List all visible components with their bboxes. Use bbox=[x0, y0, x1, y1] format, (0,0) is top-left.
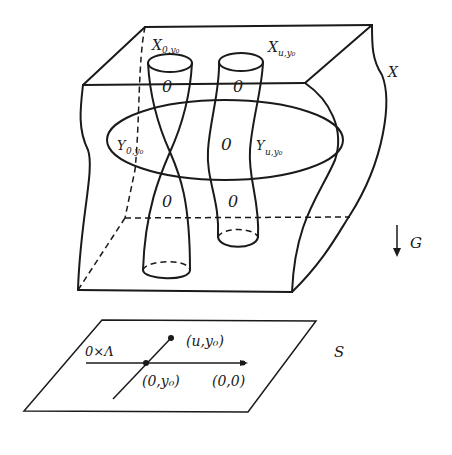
label-x-0-y0: X 0,y₀ bbox=[151, 37, 180, 55]
box-hidden-bottom-edge bbox=[125, 217, 350, 218]
box-top-right-edge bbox=[305, 25, 372, 83]
svg-text:u,y₀: u,y₀ bbox=[278, 48, 296, 58]
tube-right-top-rim bbox=[219, 53, 263, 71]
tube-left-bottom-rim bbox=[143, 270, 190, 278]
space-x-box bbox=[78, 25, 386, 292]
box-front-top-edge bbox=[83, 83, 305, 85]
label-x-u-y0: X u,y₀ bbox=[267, 39, 296, 58]
zero-mark-right-bottom: 0 bbox=[228, 192, 238, 211]
line-diagonal bbox=[113, 337, 172, 399]
zero-mark-left-top: 0 bbox=[162, 77, 172, 96]
svg-text:0,y₀: 0,y₀ bbox=[162, 45, 180, 55]
group-action-arrow: G bbox=[393, 225, 422, 257]
box-back-right-edge bbox=[292, 25, 386, 292]
point-u-y0 bbox=[168, 335, 174, 341]
label-point-0-0: (0,0) bbox=[212, 373, 245, 389]
svg-text:u,y₀: u,y₀ bbox=[265, 147, 283, 157]
base-plane-s: 0×Λ (u,y₀) (0,y₀) (0,0) S bbox=[24, 320, 344, 412]
label-g: G bbox=[410, 234, 422, 252]
plane-outline bbox=[24, 320, 316, 412]
box-top-left-edge bbox=[83, 27, 145, 85]
tube-right-bottom-rim-hidden bbox=[218, 230, 258, 238]
label-point-u-y0: (u,y₀) bbox=[186, 333, 224, 349]
fibration-diagram: 0 0 0 0 0 X 0,y₀ X u,y₀ Y 0,y₀ Y u,y₀ X … bbox=[0, 0, 452, 455]
tube-left-top-rim bbox=[148, 54, 192, 72]
box-hidden-vertical-edge bbox=[125, 27, 145, 218]
tube-right-strand-a bbox=[208, 62, 219, 237]
point-0-y0 bbox=[143, 360, 149, 366]
tube-left-bottom-rim-hidden bbox=[143, 262, 190, 270]
zero-mark-right-top: 0 bbox=[233, 77, 243, 96]
label-zero-lambda: 0×Λ bbox=[85, 344, 114, 359]
label-y-u-y0: Y u,y₀ bbox=[256, 138, 283, 157]
label-x: X bbox=[387, 64, 399, 80]
zero-mark-left-bottom: 0 bbox=[162, 192, 172, 211]
zero-mark-center: 0 bbox=[221, 134, 232, 154]
tube-right-bottom-rim bbox=[218, 237, 258, 247]
point-0-0 bbox=[241, 361, 246, 366]
box-front-left-edge bbox=[78, 85, 90, 290]
label-y-0-y0: Y 0,y₀ bbox=[117, 138, 144, 156]
box-hidden-diagonal-edge bbox=[78, 218, 125, 290]
label-s: S bbox=[334, 343, 344, 361]
label-point-0-y0: (0,y₀) bbox=[142, 373, 180, 389]
box-top-back-edge bbox=[145, 25, 372, 27]
box-front-bottom-edge bbox=[78, 290, 292, 292]
arrowhead-icon bbox=[393, 248, 401, 257]
svg-text:0,y₀: 0,y₀ bbox=[126, 146, 144, 156]
